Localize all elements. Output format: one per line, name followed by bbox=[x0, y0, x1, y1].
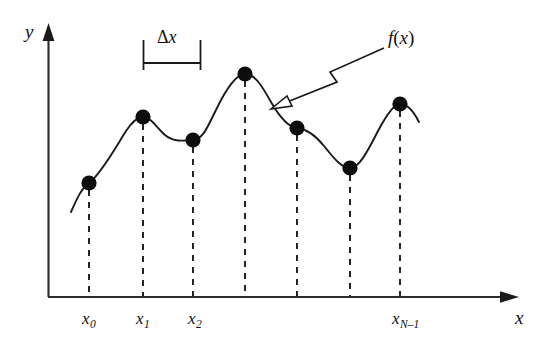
tick-base-x2: x bbox=[188, 309, 196, 328]
x-axis-label: x bbox=[515, 308, 523, 327]
data-point-x5 bbox=[342, 160, 357, 175]
tick-base-x0: x bbox=[82, 309, 90, 328]
tick-label-x2: x2 bbox=[188, 310, 201, 327]
delta-variable: x bbox=[169, 27, 177, 47]
tick-sub-x2: 2 bbox=[196, 318, 202, 330]
data-point-x1 bbox=[135, 109, 150, 124]
tick-label-x0: x0 bbox=[82, 310, 95, 327]
data-point-xN1 bbox=[392, 96, 407, 111]
tick-label-x1: x1 bbox=[136, 310, 149, 327]
function-argument: x bbox=[400, 27, 408, 48]
axes-group bbox=[43, 23, 519, 303]
tick-base-xN1: x bbox=[392, 309, 400, 328]
data-point-x3 bbox=[237, 66, 252, 81]
delta-symbol: Δ bbox=[157, 27, 169, 47]
x-axis-arrowhead bbox=[500, 291, 519, 303]
data-point-x2 bbox=[185, 132, 200, 147]
figure-canvas: y x Δx f(x) x0 x1 x2 xN–1 bbox=[0, 0, 549, 343]
tick-label-xN1: xN–1 bbox=[392, 310, 419, 327]
tick-sub-xN1: N–1 bbox=[400, 318, 419, 330]
delta-x-label: Δx bbox=[157, 28, 177, 46]
function-sampling-diagram bbox=[0, 0, 549, 343]
function-label: f(x) bbox=[388, 28, 414, 47]
y-axis-arrowhead bbox=[43, 23, 55, 41]
tick-sub-x0: 0 bbox=[90, 318, 96, 330]
drop-lines-group bbox=[89, 81, 400, 296]
tick-base-x1: x bbox=[136, 309, 144, 328]
data-point-x4 bbox=[289, 120, 304, 135]
function-close-paren: ) bbox=[408, 27, 414, 48]
fx-leader-arrowhead bbox=[271, 96, 292, 109]
data-point-x0 bbox=[81, 175, 96, 190]
fx-callout-leader bbox=[271, 48, 384, 109]
y-axis-label: y bbox=[25, 22, 33, 41]
fx-leader-line bbox=[282, 48, 384, 104]
tick-sub-x1: 1 bbox=[144, 318, 150, 330]
